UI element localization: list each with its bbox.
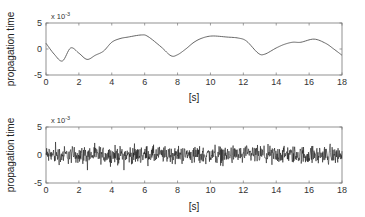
bottom-xlabel: [s] [189,201,200,212]
top-exponent-label: x 10-3 [51,11,70,21]
x-tick-label: 6 [142,77,147,87]
top-subplot: 024681012141618-505 x 10-3 propagation t… [5,11,347,103]
x-tick-label: 16 [304,77,314,87]
x-tick-label: 4 [109,185,114,195]
x-tick-label: 18 [337,185,347,195]
x-tick-label: 10 [205,77,215,87]
top-ylabel: propagation time [5,11,16,86]
top-xlabel: [s] [189,92,200,103]
figure: 024681012141618-505 x 10-3 propagation t… [0,0,365,217]
x-tick-label: 12 [238,77,248,87]
bottom-exponent-label: x 10-3 [51,115,70,125]
bottom-subplot: 024681012141618-505 x 10-3 propagation t… [5,115,347,212]
x-tick-label: 14 [271,77,281,87]
top-axes-box [46,23,342,75]
x-tick-label: 0 [43,185,48,195]
bottom-series-line [46,142,342,170]
x-tick-label: 4 [109,77,114,87]
x-tick-label: 18 [337,77,347,87]
top-ticks: 024681012141618-505 [34,18,347,87]
x-tick-label: 2 [76,185,81,195]
y-tick-label: -5 [34,178,42,188]
y-tick-label: 0 [37,150,42,160]
x-tick-label: 16 [304,185,314,195]
y-tick-label: 5 [37,122,42,132]
x-tick-label: 8 [175,77,180,87]
x-tick-label: 8 [175,185,180,195]
y-tick-label: 0 [37,44,42,54]
x-tick-label: 0 [43,77,48,87]
x-tick-label: 10 [205,185,215,195]
x-tick-label: 2 [76,77,81,87]
top-series-line [46,35,342,61]
x-tick-label: 14 [271,185,281,195]
x-tick-label: 6 [142,185,147,195]
x-tick-label: 12 [238,185,248,195]
y-tick-label: -5 [34,70,42,80]
bottom-ylabel: propagation time [5,117,16,192]
y-tick-label: 5 [37,18,42,28]
